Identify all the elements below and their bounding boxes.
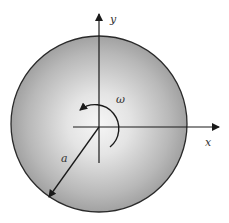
radius-label: a: [61, 152, 68, 165]
x-axis-label: x: [205, 136, 212, 149]
rotating-disk-diagram: y x ω a: [0, 0, 229, 223]
omega-label: ω: [116, 93, 125, 106]
y-axis-label: y: [109, 13, 117, 26]
